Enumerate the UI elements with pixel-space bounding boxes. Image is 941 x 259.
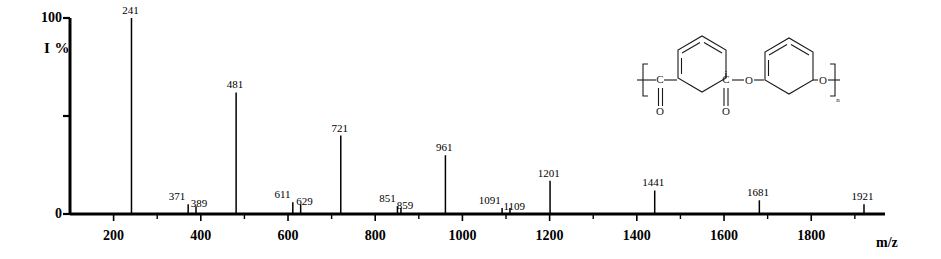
- ring2-inner-bond-1: [769, 45, 787, 56]
- mass-spectrum-chart: I % 1000 2004006008001000120014001600180…: [0, 0, 941, 259]
- atom-label-c2: C: [722, 73, 729, 85]
- repeat-subscript-n: n: [836, 96, 840, 104]
- peak-label: 611: [275, 189, 291, 200]
- peak-label: 241: [122, 5, 139, 16]
- x-tick-label: 1400: [611, 228, 663, 244]
- benzene-ring-resorcinol: [765, 38, 813, 94]
- peak-label: 481: [227, 79, 244, 90]
- atom-label-o-ester: O: [745, 74, 753, 86]
- atom-label-o2: O: [722, 105, 730, 117]
- chemical-structure-diagram: C O C O O O n: [636, 16, 841, 144]
- peak-label: 1201: [538, 168, 560, 179]
- peak-label: 961: [436, 142, 453, 153]
- x-tick-label: 1800: [785, 228, 837, 244]
- x-axis-title: m/z: [876, 235, 898, 251]
- x-tick-label: 1600: [698, 228, 750, 244]
- benzene-ring-phthalate: [678, 36, 726, 92]
- peak-label: 851: [379, 193, 396, 204]
- x-tick-label: 800: [349, 228, 401, 244]
- peak-label: 389: [191, 198, 208, 209]
- ring1-inner-bond-1: [682, 43, 700, 54]
- peak-label: 1921: [852, 191, 874, 202]
- peak-label: 371: [169, 191, 186, 202]
- ring2-inner-bond-2: [791, 45, 809, 56]
- x-tick-label: 1200: [524, 228, 576, 244]
- ring1-inner-bond-2: [704, 43, 722, 54]
- peak-label: 859: [397, 200, 414, 211]
- y-tick-label: 0: [22, 206, 62, 222]
- atom-label-c1: C: [656, 73, 663, 85]
- x-tick-label: 400: [175, 228, 227, 244]
- peak-label: 1681: [747, 187, 769, 198]
- peak-label: 629: [296, 196, 313, 207]
- y-axis-label: I %: [44, 40, 70, 57]
- x-tick-label: 200: [88, 228, 140, 244]
- atom-label-o-right: O: [819, 74, 827, 86]
- peak-label: 1091: [479, 195, 501, 206]
- x-tick-label: 600: [262, 228, 314, 244]
- peak-label: 721: [331, 123, 348, 134]
- atom-label-o1: O: [656, 105, 664, 117]
- peak-label: 1109: [504, 201, 526, 212]
- x-tick-label: 1000: [436, 228, 488, 244]
- peak-label: 1441: [642, 177, 664, 188]
- y-tick-label: 100: [22, 10, 62, 26]
